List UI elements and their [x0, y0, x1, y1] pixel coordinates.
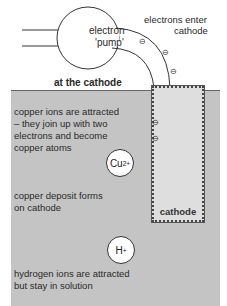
svg-text:⊖: ⊖ [152, 118, 159, 127]
svg-text:⊖: ⊖ [152, 134, 159, 143]
